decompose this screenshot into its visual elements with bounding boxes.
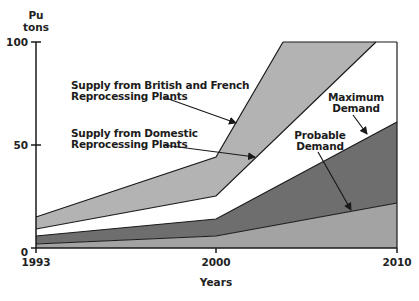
annotation-british-french-supply: Supply from British and French Reprocess… — [71, 80, 249, 102]
y-tick-label-50: 50 — [13, 139, 28, 151]
y-axis-title-line2: tons — [23, 21, 49, 33]
annotation-probable-demand: Probable Demand — [290, 130, 350, 152]
y-tick-label-100: 100 — [6, 36, 28, 48]
x-tick-label-2000: 2000 — [201, 256, 230, 268]
annotation-domestic-line2: Reprocessing Plants — [71, 139, 198, 150]
annotation-maximum-line2: Demand — [326, 103, 386, 114]
annotation-domestic-supply: Supply from Domestic Reprocessing Plants — [71, 128, 198, 150]
x-axis-title: Years — [199, 276, 232, 288]
annotation-probable-line2: Demand — [290, 141, 350, 152]
annotation-british-french-line2: Reprocessing Plants — [71, 91, 249, 102]
x-tick-label-2010: 2010 — [382, 256, 411, 268]
x-tick-label-1993: 1993 — [21, 256, 50, 268]
y-axis-title-line1: Pu — [28, 9, 43, 21]
chart-canvas: Pu tons 100 50 0 1993 2000 2010 Years — [0, 0, 419, 301]
annotation-maximum-demand: Maximum Demand — [326, 92, 386, 114]
